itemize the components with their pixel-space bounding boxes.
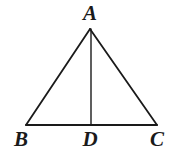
vertex-label-a: A: [76, 3, 104, 24]
vertex-label-b: B: [7, 129, 35, 150]
segment-ac: [90, 29, 157, 125]
vertex-label-d: D: [76, 129, 104, 150]
geometry-figure: A B D C: [0, 0, 182, 160]
segment-ab: [26, 29, 90, 125]
vertex-label-c: C: [143, 129, 171, 150]
